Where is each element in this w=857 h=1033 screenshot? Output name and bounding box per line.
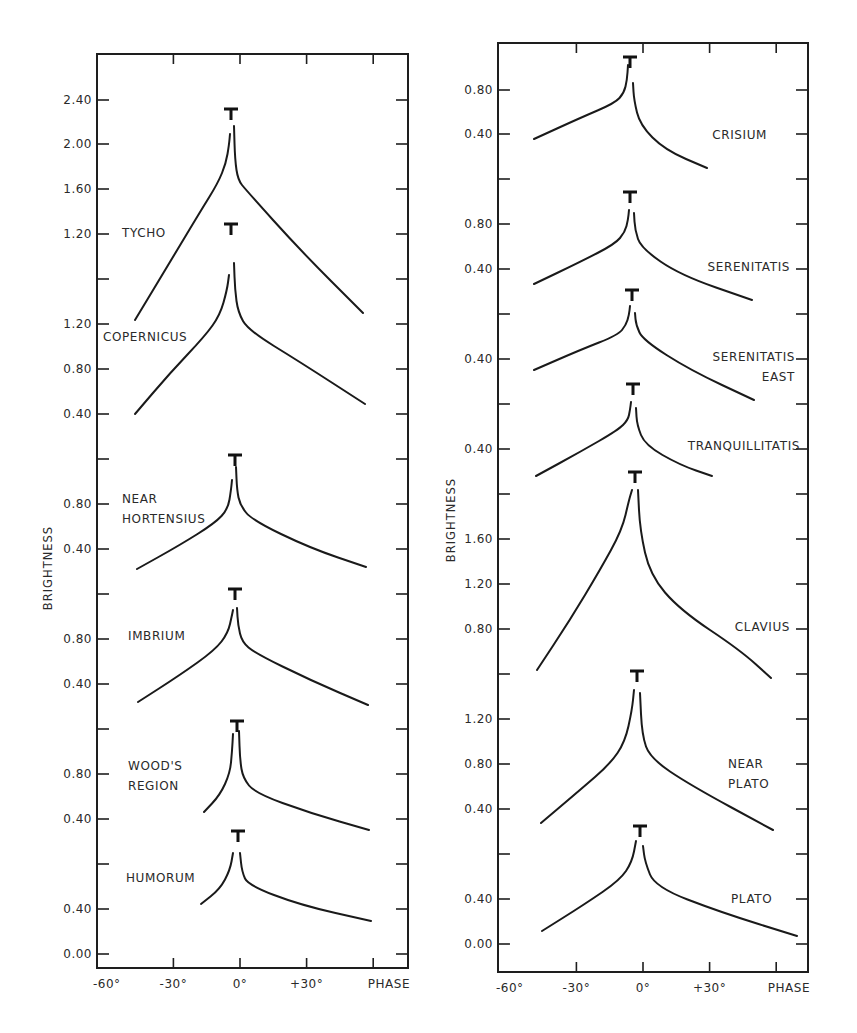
x-tick-label: -60° xyxy=(93,977,121,991)
series-label: TYCHO xyxy=(121,226,166,240)
y-tick-label: 0.40 xyxy=(464,442,493,456)
series-serenitatis: SERENITATIS xyxy=(534,192,790,300)
x-axis-title: PHASE xyxy=(768,981,810,995)
curve-right-branch xyxy=(633,83,707,168)
y-tick-label: 0.00 xyxy=(464,937,493,951)
y-tick-label: 0.40 xyxy=(63,407,92,421)
curve-left-branch xyxy=(536,402,631,476)
curve-right-branch xyxy=(239,731,369,830)
x-axis-title: PHASE xyxy=(368,977,410,991)
plot-frame xyxy=(97,54,408,968)
y-tick-label: 0.00 xyxy=(63,947,92,961)
series-label: IMBRIUM xyxy=(128,629,185,643)
series-label: PLATO xyxy=(728,777,769,791)
curve-right-branch xyxy=(634,213,752,300)
curve-right-branch xyxy=(234,263,365,404)
opposition-t-marker-icon xyxy=(231,831,245,842)
curve-left-branch xyxy=(534,210,629,284)
curve-left-branch xyxy=(542,841,636,931)
y-tick-label: 0.80 xyxy=(464,83,493,97)
series-label: SERENITATIS xyxy=(708,260,790,274)
x-tick-label: +30° xyxy=(693,981,726,995)
curve-right-branch xyxy=(240,853,371,921)
y-tick-label: 0.80 xyxy=(464,757,493,771)
y-tick-label: 0.40 xyxy=(464,802,493,816)
opposition-t-marker-icon xyxy=(633,826,647,837)
series-tycho: TYCHO xyxy=(121,109,363,320)
curve-right-branch xyxy=(236,467,366,567)
curve-left-branch xyxy=(534,306,630,370)
y-tick-label: 2.00 xyxy=(63,137,92,151)
y-tick-label: 0.40 xyxy=(464,262,493,276)
opposition-effect-figure: 2.402.001.601.201.200.800.400.800.400.80… xyxy=(0,0,857,1033)
series-label: TRANQUILLITATIS xyxy=(687,439,800,453)
y-tick-label: 1.60 xyxy=(464,532,493,546)
curve-right-branch xyxy=(638,490,771,678)
opposition-t-marker-icon xyxy=(623,192,637,203)
right-panel-chart: 0.800.400.800.400.400.401.601.200.801.20… xyxy=(464,43,810,995)
y-tick-label: 2.40 xyxy=(63,93,92,107)
x-tick-label: 0° xyxy=(636,981,651,995)
x-tick-label: 0° xyxy=(233,977,248,991)
y-tick-label: 0.80 xyxy=(63,497,92,511)
series-tranquillitatis: TRANQUILLITATIS xyxy=(536,384,800,476)
opposition-t-marker-icon xyxy=(224,109,238,120)
y-tick-label: 1.20 xyxy=(464,577,493,591)
series-label: NEAR xyxy=(122,492,158,506)
curve-left-branch xyxy=(537,490,632,670)
series-label: SERENITATIS xyxy=(713,350,795,364)
series-near-plato: NEARPLATO xyxy=(541,671,773,830)
curve-left-branch xyxy=(201,853,233,904)
y-tick-label: 0.40 xyxy=(63,542,92,556)
series-label: NEAR xyxy=(728,757,764,771)
curve-right-branch xyxy=(237,608,368,705)
series-label: CLAVIUS xyxy=(735,620,790,634)
series-label: HORTENSIUS xyxy=(122,512,205,526)
series-clavius: CLAVIUS xyxy=(537,472,790,678)
left-panel-chart: 2.402.001.601.201.200.800.400.800.400.80… xyxy=(63,54,410,991)
curve-left-branch xyxy=(534,65,628,139)
y-tick-label: 0.40 xyxy=(464,892,493,906)
opposition-t-marker-icon xyxy=(630,671,644,682)
series-label: PLATO xyxy=(731,892,772,906)
series-humorum: HUMORUM xyxy=(126,831,371,921)
x-tick-label: -30° xyxy=(160,977,188,991)
opposition-t-marker-icon xyxy=(230,721,244,732)
plot-frame xyxy=(498,43,808,972)
y-tick-label: 0.80 xyxy=(63,767,92,781)
series-plato: PLATO xyxy=(542,826,797,936)
series-wood-s-region: WOOD'SREGION xyxy=(128,721,369,830)
y-tick-label: 0.80 xyxy=(464,217,493,231)
y-tick-label: 0.40 xyxy=(63,677,92,691)
series-crisium: CRISIUM xyxy=(534,57,767,168)
series-serenitatis-east: SERENITATISEAST xyxy=(534,290,795,400)
y-tick-label: 0.40 xyxy=(63,902,92,916)
opposition-t-marker-icon xyxy=(628,472,642,483)
opposition-t-marker-icon xyxy=(626,384,640,395)
x-tick-label: -30° xyxy=(563,981,591,995)
y-tick-label: 1.20 xyxy=(464,712,493,726)
y-axis-title-right: BRIGHTNESS xyxy=(444,478,458,562)
y-tick-label: 0.40 xyxy=(464,127,493,141)
y-axis-title-left: BRIGHTNESS xyxy=(41,526,55,610)
series-label: EAST xyxy=(762,370,795,384)
y-tick-label: 0.80 xyxy=(63,362,92,376)
y-tick-label: 0.40 xyxy=(63,812,92,826)
series-label: WOOD'S xyxy=(128,759,183,773)
curve-left-branch xyxy=(138,610,233,702)
series-copernicus: COPERNICUS xyxy=(103,224,365,414)
curve-right-branch xyxy=(643,846,797,936)
series-label: COPERNICUS xyxy=(103,330,187,344)
series-label: CRISIUM xyxy=(712,128,767,142)
y-tick-label: 0.40 xyxy=(464,352,493,366)
opposition-t-marker-icon xyxy=(228,589,242,600)
series-label: REGION xyxy=(128,779,179,793)
x-tick-label: +30° xyxy=(290,977,323,991)
opposition-t-marker-icon xyxy=(625,290,639,301)
curve-right-branch xyxy=(234,126,363,313)
curve-left-branch xyxy=(204,734,233,812)
x-tick-label: -60° xyxy=(496,981,524,995)
opposition-t-marker-icon xyxy=(623,57,637,68)
series-imbrium: IMBRIUM xyxy=(128,589,368,705)
curve-left-branch xyxy=(541,690,634,823)
